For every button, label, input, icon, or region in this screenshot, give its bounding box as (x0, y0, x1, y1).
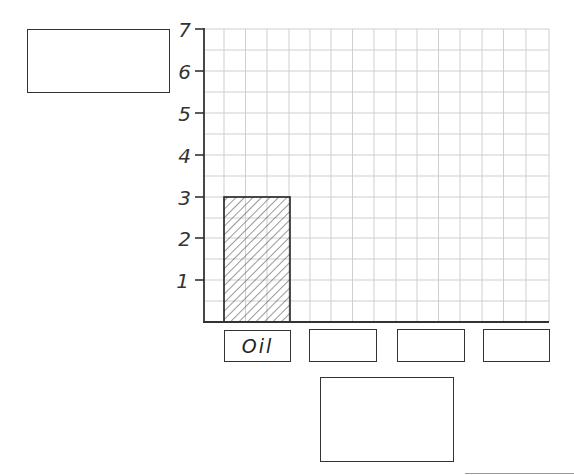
y-ticks (195, 29, 204, 280)
edge-line (465, 473, 574, 474)
category-label-2 (310, 330, 376, 361)
category-box-1[interactable]: Oil (224, 330, 291, 362)
y-tick-label-1: 1 (176, 269, 189, 293)
category-label-3 (398, 330, 464, 361)
bar-chart: 7 6 5 4 3 2 1 (0, 0, 574, 475)
y-tick-label-2: 2 (178, 227, 191, 251)
y-tick-label-5: 5 (178, 102, 191, 126)
y-tick-label-4: 4 (178, 144, 191, 168)
x-axis-label-box[interactable] (320, 377, 454, 462)
x-axis-label (321, 378, 453, 461)
bar-oil[interactable] (224, 197, 290, 322)
category-label-oil: Oil (225, 331, 290, 361)
category-label-4 (484, 330, 549, 361)
y-tick-label-7: 7 (178, 18, 191, 42)
category-box-4[interactable] (483, 329, 550, 362)
category-box-2[interactable] (309, 329, 377, 362)
y-tick-label-3: 3 (178, 186, 191, 210)
category-box-3[interactable] (397, 329, 465, 362)
y-tick-label-6: 6 (178, 60, 191, 84)
